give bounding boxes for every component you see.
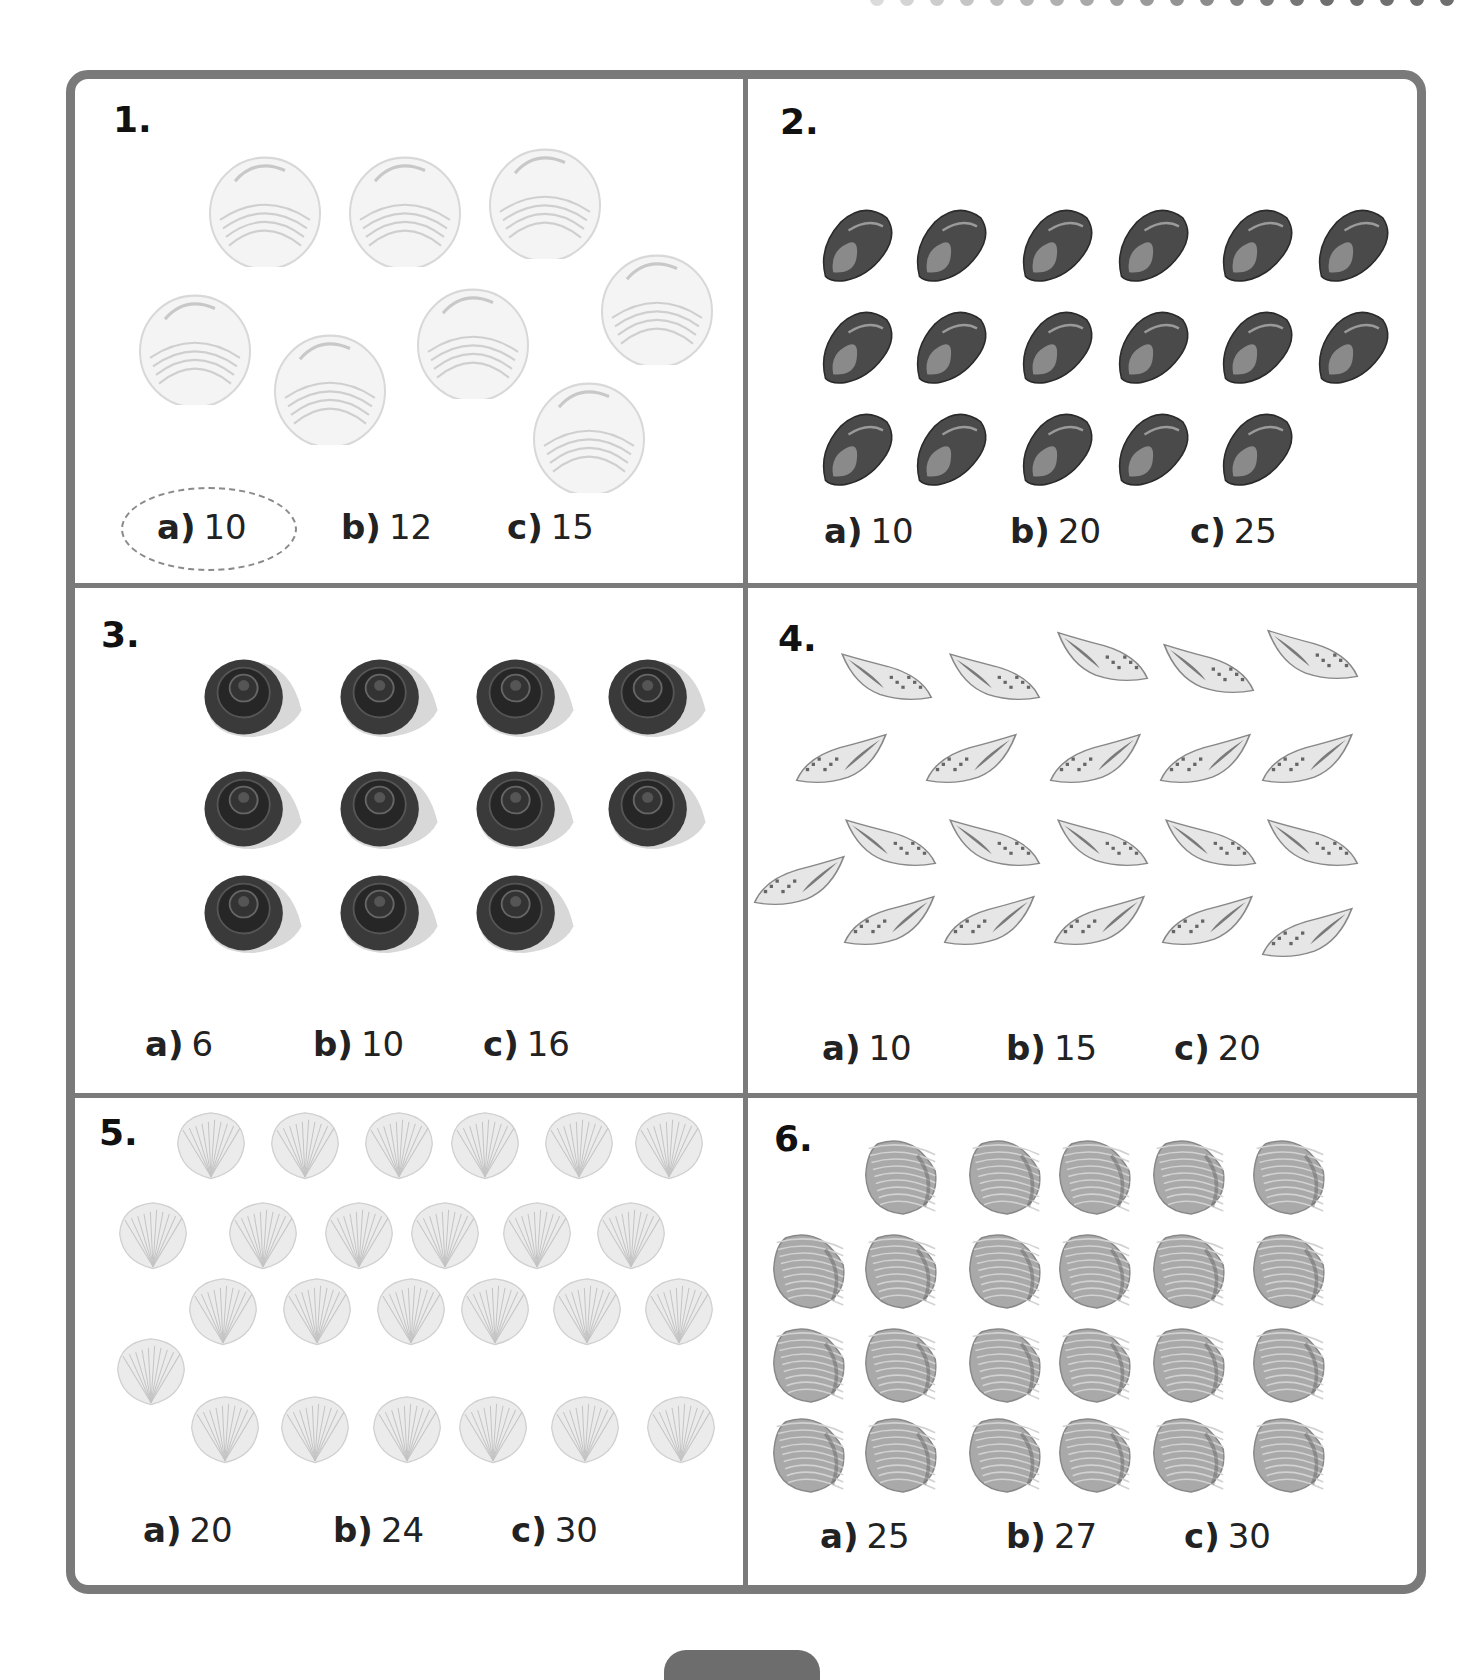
- cockle-icon: [1248, 1410, 1334, 1496]
- whelk-icon: [946, 648, 1046, 716]
- cockle-icon: [860, 1320, 946, 1406]
- whelk-icon: [1044, 728, 1144, 800]
- option-b[interactable]: b)20: [1010, 511, 1101, 551]
- whelk-icon: [1256, 902, 1356, 974]
- cockle-icon: [1054, 1320, 1140, 1406]
- snail-shell-icon: [601, 648, 713, 746]
- oyster-icon: [1310, 299, 1402, 391]
- oyster-icon: [1214, 299, 1306, 391]
- scallop-icon: [539, 1106, 619, 1182]
- oyster-icon: [1110, 197, 1202, 289]
- whelk-icon: [1154, 728, 1254, 800]
- cockle-icon: [1248, 1132, 1334, 1218]
- option-b[interactable]: b)15: [1006, 1028, 1097, 1068]
- clam-icon: [485, 141, 605, 259]
- oyster-icon: [814, 401, 906, 493]
- cockle-icon: [860, 1132, 946, 1218]
- option-b[interactable]: b)12: [341, 507, 432, 547]
- cockle-icon: [964, 1132, 1050, 1218]
- binding-hole: [1050, 0, 1064, 6]
- snail-shell-icon: [333, 864, 445, 962]
- cockle-icon: [1248, 1320, 1334, 1406]
- oyster-icon: [814, 299, 906, 391]
- option-b[interactable]: b)27: [1006, 1516, 1097, 1556]
- scallop-icon: [223, 1196, 303, 1272]
- page-tab: [664, 1650, 820, 1680]
- option-c[interactable]: c)15: [507, 507, 594, 547]
- binding-hole: [1410, 0, 1424, 6]
- option-a[interactable]: a)10: [157, 507, 247, 547]
- whelk-icon: [938, 890, 1038, 962]
- question-panel-4: 4. a)10 b)15 c)20: [748, 588, 1422, 1093]
- question-number: 1.: [113, 99, 152, 140]
- question-number: 6.: [774, 1118, 813, 1159]
- option-c[interactable]: c)30: [1184, 1516, 1271, 1556]
- oyster-icon: [908, 401, 1000, 493]
- binding-hole: [1260, 0, 1274, 6]
- scallop-icon: [111, 1332, 191, 1408]
- snail-shell-icon: [469, 864, 581, 962]
- scallop-icon: [319, 1196, 399, 1272]
- binding-hole: [990, 0, 1004, 6]
- binding-holes: [870, 0, 1457, 6]
- binding-hole: [1200, 0, 1214, 6]
- snail-shell-icon: [197, 760, 309, 858]
- scallop-icon: [359, 1106, 439, 1182]
- question-panel-5: 5. a)20 b)24 c)30: [75, 1098, 743, 1588]
- question-number: 3.: [101, 614, 140, 655]
- clam-icon: [270, 327, 390, 445]
- oyster-icon: [908, 197, 1000, 289]
- option-c[interactable]: c)20: [1174, 1028, 1261, 1068]
- binding-hole: [930, 0, 944, 6]
- option-c[interactable]: c)16: [483, 1024, 570, 1064]
- option-b[interactable]: b)24: [333, 1510, 424, 1550]
- question-panel-3: 3. a)6 b)10 c)16: [75, 588, 743, 1093]
- oyster-icon: [1014, 197, 1106, 289]
- whelk-icon: [790, 728, 890, 800]
- whelk-icon: [1162, 814, 1262, 882]
- oyster-icon: [814, 197, 906, 289]
- whelk-icon: [1156, 890, 1256, 962]
- scallop-icon: [367, 1390, 447, 1466]
- scallop-icon: [453, 1390, 533, 1466]
- oyster-icon: [1214, 197, 1306, 289]
- scallop-icon: [275, 1390, 355, 1466]
- snail-shell-icon: [197, 864, 309, 962]
- option-a[interactable]: a)25: [820, 1516, 910, 1556]
- scallop-icon: [547, 1272, 627, 1348]
- whelk-icon: [1264, 814, 1364, 882]
- whelk-icon: [920, 728, 1020, 800]
- scallop-icon: [455, 1272, 535, 1348]
- question-number: 5.: [99, 1112, 138, 1153]
- option-a[interactable]: a)10: [822, 1028, 912, 1068]
- option-b[interactable]: b)10: [313, 1024, 404, 1064]
- option-a[interactable]: a)10: [824, 511, 914, 551]
- option-c[interactable]: c)25: [1190, 511, 1277, 551]
- cockle-icon: [860, 1410, 946, 1496]
- binding-hole: [1440, 0, 1454, 6]
- option-c[interactable]: c)30: [511, 1510, 598, 1550]
- clam-icon: [135, 287, 255, 405]
- oyster-icon: [1110, 401, 1202, 493]
- binding-hole: [1020, 0, 1034, 6]
- scallop-icon: [641, 1390, 721, 1466]
- binding-hole: [870, 0, 884, 6]
- scallop-icon: [183, 1272, 263, 1348]
- cockle-icon: [1054, 1226, 1140, 1312]
- oyster-icon: [1014, 299, 1106, 391]
- binding-hole: [1080, 0, 1094, 6]
- cockle-icon: [768, 1226, 854, 1312]
- scallop-icon: [629, 1106, 709, 1182]
- option-a[interactable]: a)20: [143, 1510, 233, 1550]
- cockle-icon: [964, 1226, 1050, 1312]
- cockle-icon: [768, 1320, 854, 1406]
- cockle-icon: [1248, 1226, 1334, 1312]
- whelk-icon: [1256, 728, 1356, 800]
- scallop-icon: [591, 1196, 671, 1272]
- binding-hole: [1230, 0, 1244, 6]
- binding-hole: [900, 0, 914, 6]
- whelk-icon: [1054, 626, 1154, 698]
- option-a[interactable]: a)6: [145, 1024, 213, 1064]
- whelk-icon: [1264, 624, 1364, 696]
- scallop-icon: [497, 1196, 577, 1272]
